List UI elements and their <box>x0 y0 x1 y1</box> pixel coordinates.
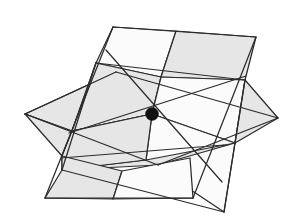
figure-container: Three mutually intersecting planes Line … <box>0 0 306 219</box>
three-planes-diagram: Three mutually intersecting planes Line … <box>0 0 306 219</box>
intersection-point-dot <box>146 108 159 121</box>
